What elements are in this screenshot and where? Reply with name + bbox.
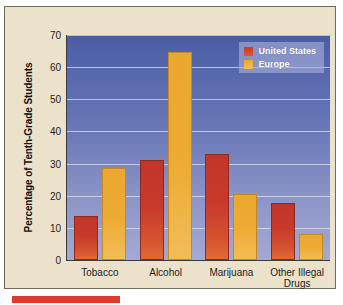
figure-card: Percentage of Tenth-Grade Students 70605… xyxy=(4,6,336,289)
x-axis-category-label: Other Illegal Drugs xyxy=(262,267,332,289)
y-axis-tick-label: 10 xyxy=(50,222,61,233)
bar-eu xyxy=(168,52,192,260)
legend-swatch-icon-europe xyxy=(244,60,253,69)
bar-group: Tobacco xyxy=(67,35,133,260)
legend-label-united-states: United States xyxy=(258,46,316,56)
chart-legend: United States Europe xyxy=(239,42,324,73)
bar-us xyxy=(205,154,229,260)
bar-us xyxy=(271,203,295,260)
y-axis-tick-label: 50 xyxy=(50,94,61,105)
x-axis-category-label: Marijuana xyxy=(196,267,266,278)
y-axis-tick-label: 60 xyxy=(50,62,61,73)
bar-eu xyxy=(102,168,126,260)
y-axis-tick-label: 70 xyxy=(50,30,61,41)
y-axis-tick-label: 40 xyxy=(50,126,61,137)
legend-item-united-states: United States xyxy=(244,46,316,56)
y-axis-tick-label: 0 xyxy=(55,255,61,266)
y-axis-title: Percentage of Tenth-Grade Students xyxy=(21,35,35,260)
bar-group: Alcohol xyxy=(133,35,199,260)
x-axis-category-label: Alcohol xyxy=(131,267,201,278)
y-axis-tick-label: 30 xyxy=(50,158,61,169)
chart-screenshot: Percentage of Tenth-Grade Students 70605… xyxy=(0,0,343,305)
caption-rule xyxy=(12,296,120,303)
plot-area: 706050403020100 TobaccoAlcoholMarijuanaO… xyxy=(66,35,330,261)
bar-eu xyxy=(233,194,257,260)
legend-item-europe: Europe xyxy=(244,59,316,69)
y-axis-tick-label: 20 xyxy=(50,190,61,201)
legend-swatch-icon-united-states xyxy=(244,47,253,56)
bar-eu xyxy=(299,234,323,260)
x-axis-category-label: Tobacco xyxy=(65,267,135,278)
bar-us xyxy=(140,160,164,260)
bar-us xyxy=(74,216,98,260)
legend-label-europe: Europe xyxy=(258,59,289,69)
